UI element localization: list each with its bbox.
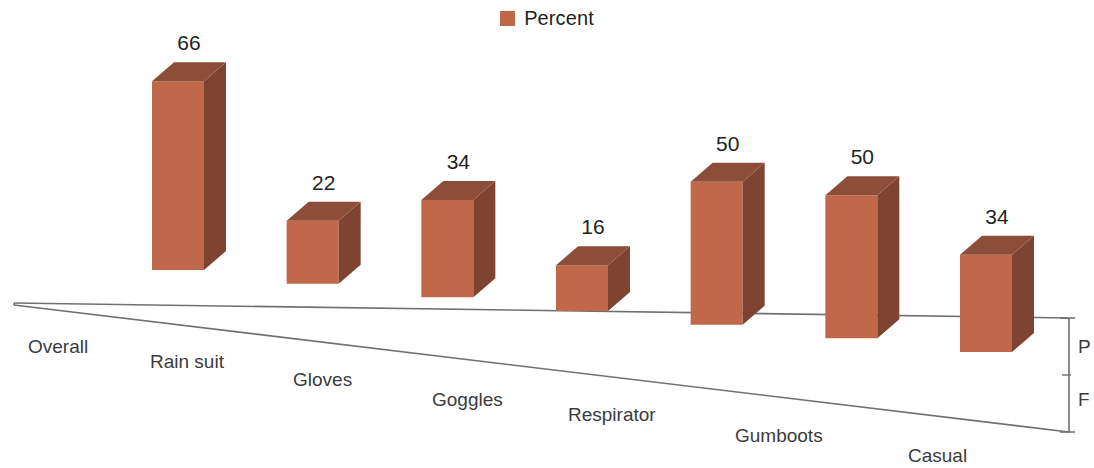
bar-group [152,62,1034,352]
bar-gumboots [825,176,899,338]
category-label-gloves: Gloves [293,370,352,389]
bar-side-face [473,181,495,297]
bar-front-face [691,182,743,325]
data-label: 50 [698,133,758,154]
data-label: 66 [159,32,219,53]
clipped-edge-label-1: F [1078,390,1090,409]
category-label-overall: Overall [28,337,88,356]
data-label: 34 [428,151,488,172]
data-label: 34 [967,206,1027,227]
bar-side-face [743,163,765,325]
bar-goggles [556,246,630,311]
bar-chart: Percent 66223416505034 OverallRain suitG… [0,0,1094,468]
data-label: 50 [832,146,892,167]
bar-front-face [960,255,1012,352]
bar-rain-suit [287,202,361,284]
bar-front-face [287,221,339,284]
plot-area [0,0,1094,468]
bar-gloves [421,181,495,297]
bar-side-face [877,176,899,338]
clipped-edge-label-0: P [1078,337,1091,356]
category-label-rain-suit: Rain suit [150,352,224,371]
category-label-goggles: Goggles [432,390,503,409]
category-label-gumboots: Gumboots [735,426,823,445]
bar-front-face [825,195,877,338]
data-label: 16 [563,216,623,237]
data-label: 22 [294,172,354,193]
floor-back-edge [14,303,1069,318]
bar-front-face [152,81,204,270]
category-label-respirator: Respirator [568,405,656,424]
bar-respirator [691,163,765,325]
bar-front-face [421,200,473,297]
right-axis-wall [1060,318,1075,432]
bar-casual [960,236,1034,352]
bar-side-face [204,62,226,270]
bar-overall [152,62,226,270]
bar-front-face [556,265,608,311]
category-label-casual: Casual [908,446,967,465]
bar-side-face [1012,236,1034,352]
